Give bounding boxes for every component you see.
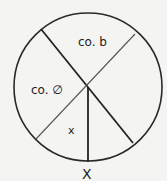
background — [0, 0, 167, 181]
label-co-phi: co. ∅ — [31, 83, 63, 97]
label-x: x — [68, 124, 75, 137]
napier-circle-diagram: co. b co. ∅ x X — [0, 0, 167, 181]
label-co-b: co. b — [78, 35, 107, 49]
label-X: X — [82, 166, 92, 181]
